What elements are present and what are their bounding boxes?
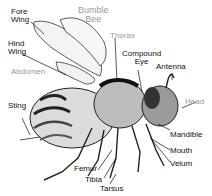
label-tarsus: Tarsus	[100, 185, 124, 193]
label-femur: Femur	[74, 165, 97, 173]
bumble-bee-diagram: Bumble Bee Fore Wing Hind Wing Abdomen T…	[0, 0, 212, 196]
label-velum: Velum	[170, 160, 192, 168]
label-hind-wing: Hind Wing	[8, 40, 26, 56]
label-fore-wing-line-2: Wing	[11, 16, 29, 24]
label-mandible: Mandible	[170, 131, 202, 139]
label-mouth: Mouth	[170, 147, 192, 155]
label-fore-wing: Fore Wing	[11, 8, 29, 24]
label-hind-wing-line-2: Wing	[8, 48, 26, 56]
label-sting: Sting	[8, 102, 26, 110]
title-line-2: Bee	[78, 15, 109, 24]
label-tibia: Tibia	[85, 176, 102, 184]
label-antenna: Antenna	[156, 63, 186, 71]
label-thorax: Thorax	[110, 32, 135, 40]
label-head: Head	[185, 98, 204, 106]
diagram-title: Bumble Bee	[78, 6, 109, 24]
label-abdomen: Abdomen	[11, 68, 45, 76]
